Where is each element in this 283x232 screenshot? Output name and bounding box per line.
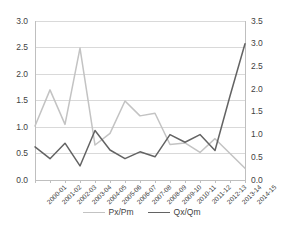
series-lines bbox=[35, 44, 245, 169]
right-axis-tick: 3.5 bbox=[251, 17, 275, 26]
legend-item[interactable]: Qx/Qm bbox=[148, 208, 201, 217]
left-axis-tick: 0.5 bbox=[4, 149, 28, 158]
right-axis-tick: 1.5 bbox=[251, 107, 275, 116]
right-axis-tick: 2.5 bbox=[251, 62, 275, 71]
chart-container: 0.00.51.01.52.02.53.0 0.00.51.01.52.02.5… bbox=[0, 0, 283, 232]
legend-item[interactable]: Px/Pm bbox=[83, 208, 134, 217]
chart-legend: Px/PmQx/Qm bbox=[0, 208, 283, 217]
left-axis-tick: 3.0 bbox=[4, 17, 28, 26]
series-line-qx-qm bbox=[35, 44, 245, 166]
right-axis-tick: 2.0 bbox=[251, 85, 275, 94]
right-axis-tick: 1.0 bbox=[251, 130, 275, 139]
left-axis-tick: 2.0 bbox=[4, 70, 28, 79]
left-axis-tick: 1.5 bbox=[4, 96, 28, 105]
legend-swatch-icon bbox=[83, 212, 105, 213]
left-axis-tick: 2.5 bbox=[4, 43, 28, 52]
left-axis-tick: 1.0 bbox=[4, 123, 28, 132]
left-axis-tick: 0.0 bbox=[4, 176, 28, 185]
series-line-px-pm bbox=[35, 48, 245, 168]
plot-area bbox=[35, 21, 247, 182]
gridlines bbox=[35, 21, 245, 180]
legend-label: Qx/Qm bbox=[174, 208, 201, 217]
right-axis-tick: 0.5 bbox=[251, 153, 275, 162]
right-axis-tick: 3.0 bbox=[251, 39, 275, 48]
legend-label: Px/Pm bbox=[109, 208, 134, 217]
legend-swatch-icon bbox=[148, 212, 170, 213]
axis-lines bbox=[35, 21, 245, 183]
